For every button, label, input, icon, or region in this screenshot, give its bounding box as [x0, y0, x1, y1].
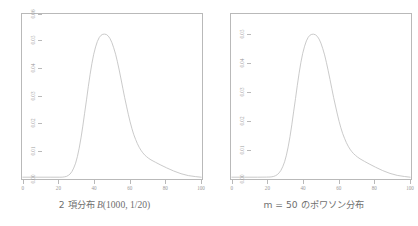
x-axis-poisson: 0 20 40 60 80 100: [230, 180, 412, 196]
x-tick-label: 60: [127, 185, 132, 191]
x-tick-label: 20: [56, 185, 61, 191]
y-tick-mark: [247, 63, 251, 64]
y-tick-mark: [38, 68, 42, 69]
x-tick-mark: [94, 180, 95, 184]
y-tick-label: 0.05: [33, 40, 38, 49]
y-tick-mark: [247, 150, 251, 151]
y-tick-mark: [38, 96, 42, 97]
x-tick-label: 20: [265, 185, 270, 191]
x-tick-mark: [201, 180, 202, 184]
x-tick-label: 40: [301, 185, 306, 191]
caption-text-suffix: ポワソン分布: [310, 199, 364, 210]
plot-area-poisson: 0.00 0.01 0.02 0.03 0.04 0.05 0 20 40 60…: [230, 13, 412, 180]
y-tick-mark: [38, 123, 42, 124]
x-tick-label: 60: [336, 185, 341, 191]
caption-text-suffix: (1000, 1/20): [103, 199, 150, 210]
y-tick-mark: [38, 151, 42, 152]
caption-poisson: m = 50 のポワソン分布: [209, 198, 418, 212]
x-tick-mark: [374, 180, 375, 184]
y-axis-binomial: 0.00 0.01 0.02 0.03 0.04 0.05 0.06: [21, 13, 42, 180]
x-tick-mark: [232, 180, 233, 184]
y-tick-label: 0.06: [33, 14, 38, 23]
x-tick-label: 100: [406, 185, 414, 191]
y-tick-label: 0.02: [242, 121, 247, 130]
caption-text-prefix: 2 項分布: [59, 199, 95, 210]
y-tick-mark: [247, 92, 251, 93]
figure-root: 0.00 0.01 0.02 0.03 0.04 0.05 0.06 0 20 …: [0, 0, 418, 226]
x-tick-mark: [130, 180, 131, 184]
y-tick-mark: [38, 40, 42, 41]
y-tick-label: 0.04: [33, 68, 38, 77]
y-tick-mark: [247, 121, 251, 122]
x-tick-label: 40: [92, 185, 97, 191]
caption-text-prefix: m = 50 の: [263, 199, 309, 210]
x-tick-label: 80: [163, 185, 168, 191]
y-tick-label: 0.03: [242, 92, 247, 101]
y-tick-label: 0.05: [242, 34, 247, 43]
x-tick-label: 0: [231, 185, 234, 191]
y-tick-label: 0.04: [242, 63, 247, 72]
x-tick-label: 100: [197, 185, 205, 191]
x-tick-mark: [303, 180, 304, 184]
y-axis-poisson: 0.00 0.01 0.02 0.03 0.04 0.05: [230, 13, 251, 180]
x-tick-mark: [267, 180, 268, 184]
curve-poisson: [230, 13, 412, 180]
plot-area-binomial: 0.00 0.01 0.02 0.03 0.04 0.05 0.06 0 20 …: [21, 13, 203, 180]
x-tick-mark: [410, 180, 411, 184]
x-axis-binomial: 0 20 40 60 80 100: [21, 180, 203, 196]
x-tick-mark: [23, 180, 24, 184]
x-tick-label: 0: [22, 185, 25, 191]
x-tick-mark: [58, 180, 59, 184]
caption-binomial: 2 項分布 B(1000, 1/20): [0, 198, 209, 212]
y-tick-mark: [247, 34, 251, 35]
y-tick-label: 0.03: [33, 96, 38, 105]
panel-poisson: 0.00 0.01 0.02 0.03 0.04 0.05 0 20 40 60…: [209, 0, 418, 226]
curve-binomial: [21, 13, 203, 180]
y-tick-label: 0.02: [33, 123, 38, 132]
x-tick-label: 80: [372, 185, 377, 191]
x-tick-mark: [339, 180, 340, 184]
y-tick-label: 0.01: [242, 150, 247, 159]
y-tick-mark: [38, 14, 42, 15]
y-tick-label: 0.01: [33, 151, 38, 160]
panel-binomial: 0.00 0.01 0.02 0.03 0.04 0.05 0.06 0 20 …: [0, 0, 209, 226]
x-tick-mark: [165, 180, 166, 184]
